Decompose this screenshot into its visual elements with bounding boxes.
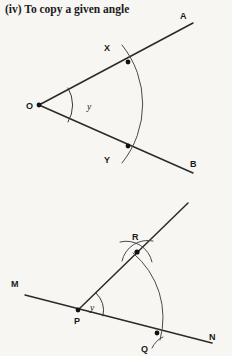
label-Y: Y	[104, 155, 110, 165]
label-angle-y-given: y	[86, 102, 92, 112]
geometry-figure-svg: (iv) To copy a given angle O A B X Y	[0, 0, 232, 356]
label-O: O	[26, 101, 33, 111]
angle-arc-P	[96, 293, 104, 316]
label-Q: Q	[141, 344, 148, 354]
point-dot-Y	[126, 144, 131, 149]
ray-OB	[39, 105, 193, 173]
label-N: N	[209, 332, 216, 342]
given-angle-figure: O A B X Y y	[26, 11, 197, 173]
figure-page: (iv) To copy a given angle O A B X Y	[0, 0, 232, 356]
figure-title: (iv) To copy a given angle	[5, 3, 129, 16]
label-M: M	[11, 279, 19, 289]
construction-arc-XY	[122, 45, 143, 163]
label-P: P	[74, 316, 80, 326]
ray-OA	[39, 23, 193, 105]
label-A: A	[180, 11, 187, 21]
point-dot-Q	[155, 331, 160, 336]
line-MN	[25, 295, 212, 343]
label-angle-y-copy: y	[89, 303, 95, 313]
copied-angle-figure: M N P R Q y	[11, 203, 216, 354]
vertex-dot-O	[37, 103, 42, 108]
ray-PR	[78, 203, 188, 310]
label-X: X	[104, 43, 110, 53]
point-dot-R	[134, 249, 139, 254]
tail-arc-Q	[152, 337, 163, 348]
label-R: R	[132, 232, 139, 242]
point-dot-X	[126, 60, 131, 65]
vertex-dot-P	[76, 308, 81, 313]
label-B: B	[190, 159, 197, 169]
angle-arc-O	[68, 88, 73, 122]
